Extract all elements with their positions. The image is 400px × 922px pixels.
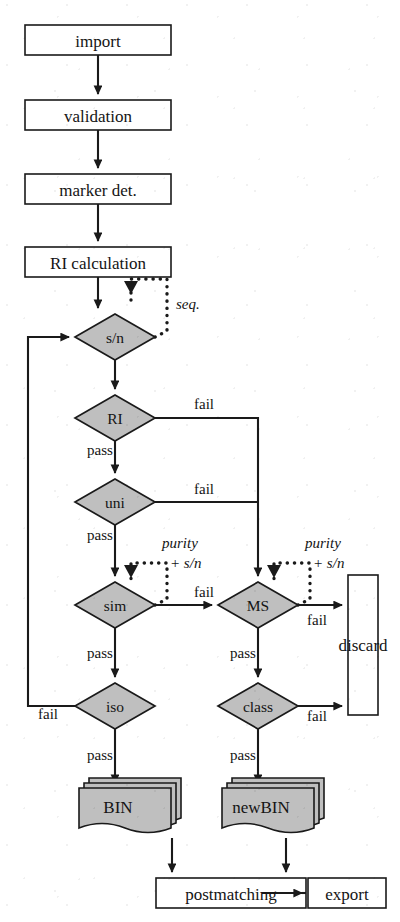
data-stack-bin-layer1	[79, 788, 171, 833]
data-stack-newbin	[222, 778, 324, 833]
flowchart-graphics	[0, 0, 400, 922]
decision-diamond-class	[218, 683, 298, 729]
loop-seq-arrowhead	[124, 281, 138, 294]
process-box-ri-calculation	[25, 247, 171, 277]
process-box-marker-det	[25, 174, 171, 204]
decision-diamond-ri	[75, 395, 155, 441]
process-box-import	[25, 25, 171, 55]
flowchart-canvas: import validation marker det. RI calcula…	[0, 0, 400, 922]
process-box-validation	[25, 100, 171, 130]
decision-diamond-iso	[75, 683, 155, 729]
process-box-export	[308, 878, 386, 908]
data-stack-newbin-layer1	[222, 788, 314, 833]
loop-ms-purity-arrowhead	[267, 565, 281, 578]
decision-diamond-uni	[75, 479, 155, 525]
decision-diamond-group	[75, 314, 298, 729]
decision-diamond-ms	[218, 582, 298, 628]
fail-route-edges	[28, 337, 342, 706]
iteration-loop-edges	[124, 279, 310, 605]
loop-sim-purity-arrowhead	[124, 565, 138, 578]
edge-ri-fail-to-ms	[155, 418, 258, 576]
decision-diamond-sn	[75, 314, 155, 360]
data-stack-bin	[79, 778, 181, 833]
process-box-group	[25, 25, 386, 908]
process-box-discard	[348, 575, 378, 715]
data-stack-group	[79, 778, 324, 833]
decision-diamond-sim	[75, 582, 155, 628]
edge-iso-fail-feedback	[28, 337, 75, 706]
